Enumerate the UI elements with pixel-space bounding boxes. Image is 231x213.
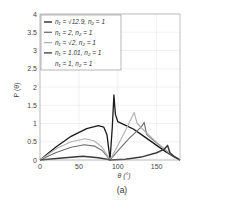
- x-tick-label: 50: [75, 163, 83, 170]
- legend: n₁ = √12.9, n₂ = 1n₁ = 2, n₂ = 1n₁ = √2,…: [41, 15, 121, 70]
- x-tick-label: 150: [151, 163, 163, 170]
- legend-label: n₁ = 2, n₂ = 1: [55, 29, 93, 36]
- y-tick-label: 0: [33, 157, 37, 164]
- y-tick-label: 2: [33, 84, 37, 91]
- y-tick-label: 1.5: [27, 102, 37, 109]
- data-series: [40, 95, 180, 160]
- y-tick-label: 3.5: [27, 29, 37, 36]
- x-tick-label: 0: [38, 163, 42, 170]
- legend-label: n₁ = √12.9, n₂ = 1: [55, 18, 105, 25]
- y-tick-label: 2.5: [27, 65, 37, 72]
- y-axis-label: P (θ): [13, 82, 21, 97]
- x-axis-label: θ (°): [117, 172, 130, 180]
- legend-label: n₁ = 1.01, n₂ = 1: [55, 49, 102, 56]
- polar-plot-chart: 00.511.522.533.54050100150 θ (°) P (θ) (…: [0, 0, 231, 213]
- legend-label: n₁ = 1, n₂ = 1: [55, 60, 93, 67]
- legend-label: n₁ = √2, n₂ = 1: [55, 39, 96, 46]
- figure-caption: (a): [117, 185, 128, 195]
- y-tick-label: 1: [33, 120, 37, 127]
- y-tick-label: 0.5: [27, 138, 37, 145]
- y-tick-label: 4: [33, 11, 37, 18]
- x-tick-label: 100: [112, 163, 124, 170]
- y-tick-label: 3: [33, 47, 37, 54]
